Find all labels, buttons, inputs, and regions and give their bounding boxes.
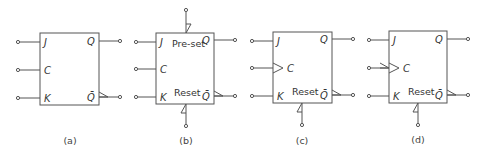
flip-flop-d-qbar-label: Q̄ <box>435 89 443 101</box>
flip-flop-b-reset-terminal <box>184 124 187 127</box>
flip-flop-c-caption: (c) <box>296 135 309 146</box>
flip-flop-b-q-terminal <box>233 38 236 41</box>
flip-flop-c-q-terminal <box>351 37 354 40</box>
flip-flop-a-q-label: Q <box>87 36 95 47</box>
flip-flop-b-c-label: C <box>160 64 167 75</box>
flip-flop-c-q-label: Q <box>320 34 328 45</box>
flip-flop-a-qbar-label: Q̄ <box>87 91 95 103</box>
flip-flop-c-qbar-negation-icon <box>332 90 341 95</box>
flip-flop-a-c-terminal <box>16 68 19 71</box>
flip-flop-c-reset-terminal <box>300 123 303 126</box>
flip-flop-d-clock-negation-icon <box>380 63 389 68</box>
flip-flop-b-qbar-terminal <box>233 94 236 97</box>
flip-flop-c-c-terminal <box>250 66 253 69</box>
flip-flop-c-qbar-label: Q̄ <box>320 89 328 101</box>
flip-flop-d-j-terminal <box>367 38 370 41</box>
flip-flop-d-k-terminal <box>367 94 370 97</box>
flip-flop-d-caption: (d) <box>411 134 424 145</box>
flip-flop-c-k-terminal <box>250 94 253 97</box>
flip-flop-figure: J C K Q Q̄ (a) J C K Q Q̄ Pre-s <box>0 0 484 153</box>
flip-flop-c: J C K Q Q̄ Reset (c) <box>250 32 354 146</box>
flip-flop-a-j-terminal <box>16 40 19 43</box>
flip-flop-b-preset-negation-icon <box>186 24 191 33</box>
flip-flop-a-qbar-negation-icon <box>99 92 108 97</box>
flip-flop-d: J C K Q Q̄ Reset (d) <box>367 31 469 145</box>
flip-flop-c-reset-negation-icon <box>297 103 302 112</box>
flip-flop-b: J C K Q Q̄ Pre-set Reset (b) <box>134 8 236 146</box>
flip-flop-d-reset-negation-icon <box>413 103 418 112</box>
flip-flop-d-c-label: C <box>403 63 410 74</box>
flip-flop-b-reset-label: Reset <box>174 87 201 98</box>
flip-flop-d-qbar-negation-icon <box>447 90 456 95</box>
flip-flop-b-k-terminal <box>134 95 137 98</box>
flip-flop-d-reset-label: Reset <box>408 86 435 97</box>
flip-flop-d-q-terminal <box>466 37 469 40</box>
flip-flop-d-q-label: Q <box>435 34 443 45</box>
flip-flop-a-q-terminal <box>118 39 121 42</box>
flip-flop-d-reset-terminal <box>416 123 419 126</box>
flip-flop-b-c-terminal <box>134 67 137 70</box>
flip-flop-a-k-terminal <box>16 96 19 99</box>
flip-flop-c-c-label: C <box>287 63 294 74</box>
flip-flop-b-qbar-label: Q̄ <box>202 90 210 102</box>
flip-flop-b-preset-terminal <box>184 8 187 11</box>
flip-flop-a-caption: (a) <box>63 135 76 146</box>
flip-flop-c-reset-label: Reset <box>292 86 319 97</box>
flip-flop-b-reset-negation-icon <box>181 104 186 113</box>
flip-flop-c-j-terminal <box>250 39 253 42</box>
flip-flop-a-c-label: C <box>44 65 51 76</box>
flip-flop-b-preset-label: Pre-set <box>172 38 205 49</box>
flip-flop-a: J C K Q Q̄ (a) <box>16 33 121 146</box>
flip-flop-d-qbar-terminal <box>466 93 469 96</box>
flip-flop-c-qbar-terminal <box>351 93 354 96</box>
flip-flop-a-qbar-terminal <box>118 95 121 98</box>
flip-flop-b-j-terminal <box>134 40 137 43</box>
flip-flop-d-c-terminal <box>367 66 370 69</box>
flip-flop-b-qbar-negation-icon <box>214 91 223 96</box>
flip-flop-b-caption: (b) <box>179 135 192 146</box>
